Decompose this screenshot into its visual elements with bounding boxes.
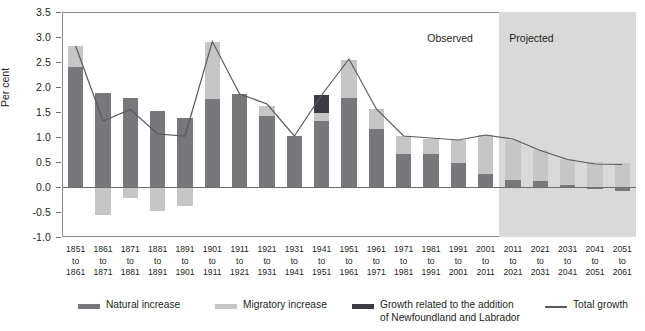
x-axis-tick-label: 1911to1921 xyxy=(226,244,253,279)
x-axis-tick-label-line: to xyxy=(308,256,335,268)
x-axis-tick-label: 1851to1861 xyxy=(62,244,89,279)
x-axis-tick-label-line: 1991 xyxy=(417,267,444,279)
x-axis-tick-label-line: 2031 xyxy=(527,267,554,279)
legend-swatch-migratory-increase xyxy=(215,304,237,309)
x-axis-tick-label-line: 1911 xyxy=(226,244,253,256)
x-axis-tick-label-line: 1911 xyxy=(199,267,226,279)
x-axis-tick-label-line: 1901 xyxy=(171,267,198,279)
y-axis-tick-mark xyxy=(56,87,61,88)
y-axis-tick-label: 3.5 xyxy=(36,6,51,18)
x-axis-tick-label-line: 2031 xyxy=(554,244,581,256)
x-axis-tick-label-line: to xyxy=(171,256,198,268)
x-axis-tick-label-line: to xyxy=(390,256,417,268)
y-axis-tick-label: 2.0 xyxy=(36,81,51,93)
x-axis-tick-label-line: 1991 xyxy=(445,244,472,256)
x-axis-tick-label: 1991to2001 xyxy=(445,244,472,279)
x-axis-tick-label-line: to xyxy=(363,256,390,268)
x-axis-tick-label-line: 1871 xyxy=(117,244,144,256)
legend-label-natural-increase: Natural increase xyxy=(106,299,180,312)
x-axis-tick-label: 1861to1871 xyxy=(89,244,116,279)
x-axis-tick-label-line: 1851 xyxy=(62,244,89,256)
y-axis-tick-label: 1.0 xyxy=(36,131,51,143)
x-axis-tick-label-line: to xyxy=(226,256,253,268)
x-axis-labels: 1851to18611861to18711871to18811881to1891… xyxy=(62,244,636,290)
x-axis-tick-label-line: 1871 xyxy=(89,267,116,279)
y-axis-tick-mark xyxy=(56,37,61,38)
y-axis: Per cent 3.53.02.52.01.51.00.50.0-0.5-1.… xyxy=(0,12,62,237)
x-axis-tick-label-line: 1951 xyxy=(308,267,335,279)
x-axis-tick-label-line: 1981 xyxy=(390,267,417,279)
x-axis-tick-label-line: to xyxy=(117,256,144,268)
x-axis-tick-label: 2011to2021 xyxy=(499,244,526,279)
x-axis-tick-label-line: 1891 xyxy=(144,267,171,279)
x-axis-tick-label: 2031to2041 xyxy=(554,244,581,279)
legend-label-newfoundland-addition-line2: of Newfoundland and Labrador xyxy=(380,312,520,325)
legend-label-migratory-increase: Migratory increase xyxy=(243,299,327,312)
x-axis-tick-label: 1981to1991 xyxy=(417,244,444,279)
y-axis-tick-label: 2.5 xyxy=(36,56,51,68)
x-axis-tick-label-line: 1931 xyxy=(281,244,308,256)
legend-label-total-growth: Total growth xyxy=(573,299,628,312)
y-axis-title: Per cent xyxy=(0,68,11,107)
x-axis-tick-label-line: to xyxy=(472,256,499,268)
x-axis-tick-label-line: 2021 xyxy=(527,244,554,256)
y-axis-tick-mark xyxy=(56,187,61,188)
x-axis-tick-label: 1881to1891 xyxy=(144,244,171,279)
x-axis-tick-label-line: 1941 xyxy=(281,267,308,279)
x-axis-tick-label-line: 1921 xyxy=(226,267,253,279)
y-axis-tick-mark xyxy=(56,237,61,238)
y-axis-tick-mark xyxy=(56,12,61,13)
x-axis-tick-label-line: to xyxy=(89,256,116,268)
x-axis-tick-label-line: 1961 xyxy=(335,267,362,279)
y-axis-tick-label: -0.5 xyxy=(33,206,52,218)
x-axis-tick-label-line: 2011 xyxy=(499,244,526,256)
x-axis-tick-label-line: 2051 xyxy=(581,267,608,279)
x-axis-tick-label-line: to xyxy=(253,256,280,268)
x-axis-tick-label-line: 2021 xyxy=(499,267,526,279)
y-axis-tick-label: 0.0 xyxy=(36,181,51,193)
x-axis-tick-label-line: to xyxy=(581,256,608,268)
x-axis-tick-label: 2001to2011 xyxy=(472,244,499,279)
x-axis-tick-label: 1941to1951 xyxy=(308,244,335,279)
x-axis-tick-label-line: 1861 xyxy=(89,244,116,256)
x-axis-tick-label-line: 2011 xyxy=(472,267,499,279)
chart-legend: Natural increase Migratory increase Grow… xyxy=(0,297,645,331)
y-axis-tick-mark xyxy=(56,212,61,213)
total-growth-line xyxy=(62,12,636,237)
x-axis-tick-label: 1891to1901 xyxy=(171,244,198,279)
x-axis-tick-label-line: to xyxy=(281,256,308,268)
y-axis-tick-label: 1.5 xyxy=(36,106,51,118)
x-axis-tick-label-line: 1901 xyxy=(199,244,226,256)
x-axis-tick-label: 1921to1931 xyxy=(253,244,280,279)
x-axis-tick-label-line: 1881 xyxy=(144,244,171,256)
x-axis-tick-label-line: to xyxy=(527,256,554,268)
annotation-observed: Observed xyxy=(427,32,473,44)
x-axis-tick-label-line: 2001 xyxy=(472,244,499,256)
x-axis-tick-label: 2041to2051 xyxy=(581,244,608,279)
x-axis-tick-label-line: to xyxy=(62,256,89,268)
x-axis-tick-label: 1961to1971 xyxy=(363,244,390,279)
x-axis-tick-label-line: 2041 xyxy=(554,267,581,279)
x-axis-tick-label-line: 2061 xyxy=(609,267,636,279)
x-axis-tick-label: 1901to1911 xyxy=(199,244,226,279)
plot-area: Observed Projected xyxy=(62,12,636,237)
x-axis-tick-label-line: 2051 xyxy=(609,244,636,256)
y-axis-tick-mark xyxy=(56,162,61,163)
chart-figure: Per cent 3.53.02.52.01.51.00.50.0-0.5-1.… xyxy=(0,0,645,331)
x-axis-tick-label-line: 2041 xyxy=(581,244,608,256)
legend-swatch-total-growth xyxy=(545,306,567,308)
x-axis-tick-label-line: to xyxy=(144,256,171,268)
x-axis-tick-label: 2051to2061 xyxy=(609,244,636,279)
x-axis-tick-label-line: 1971 xyxy=(363,267,390,279)
total-growth-polyline xyxy=(76,42,623,165)
x-axis-tick-label-line: to xyxy=(554,256,581,268)
x-axis-tick-label: 1951to1961 xyxy=(335,244,362,279)
annotation-projected: Projected xyxy=(509,32,553,44)
y-axis-tick-mark xyxy=(56,137,61,138)
x-axis-tick-label-line: to xyxy=(445,256,472,268)
x-axis-tick-label-line: 1951 xyxy=(335,244,362,256)
x-axis-tick-label-line: 1861 xyxy=(62,267,89,279)
legend-swatch-newfoundland-addition xyxy=(352,304,374,309)
legend-label-newfoundland-addition-line1: Growth related to the addition xyxy=(380,299,514,312)
y-axis-tick-label: -1.0 xyxy=(33,231,52,243)
